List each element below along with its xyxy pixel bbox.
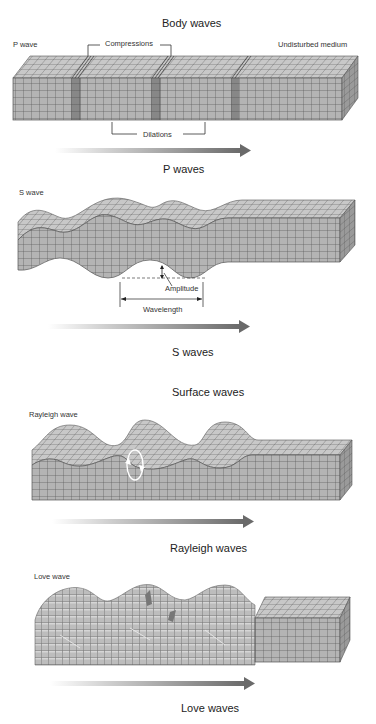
dilations-label: Dilations <box>143 130 172 139</box>
surface-waves-title: Surface waves <box>172 386 244 398</box>
amplitude-label: Amplitude <box>165 284 198 293</box>
p-direction-arrow-icon <box>0 144 376 156</box>
s-direction-arrow-icon <box>0 320 376 332</box>
wavelength-label: Wavelength <box>143 305 182 314</box>
rayleigh-wave-block <box>0 415 376 525</box>
rayleigh-direction-arrow-icon <box>0 515 376 527</box>
love-waves-caption: Love waves <box>181 702 239 714</box>
love-wave-block <box>0 580 376 690</box>
p-wave-block <box>0 0 376 130</box>
love-direction-arrow-icon <box>0 677 376 689</box>
rayleigh-waves-caption: Rayleigh waves <box>170 542 247 554</box>
s-waves-caption: S waves <box>172 346 214 358</box>
p-waves-caption: P waves <box>163 163 204 175</box>
